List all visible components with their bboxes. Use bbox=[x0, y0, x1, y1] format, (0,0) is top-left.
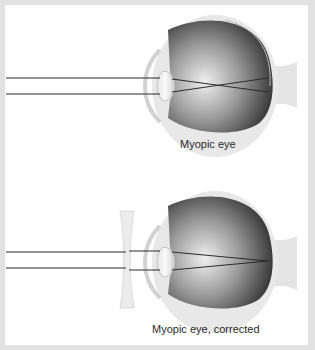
eyeball-interior bbox=[168, 197, 273, 309]
myopic-eye-illustration bbox=[6, 15, 297, 157]
crystalline-lens bbox=[157, 71, 173, 101]
caption-myopic-eye-corrected: Myopic eye, corrected bbox=[152, 323, 260, 335]
corrected-eye-illustration bbox=[6, 191, 297, 333]
myopia-diagram bbox=[0, 0, 315, 350]
caption-myopic-eye: Myopic eye bbox=[180, 138, 236, 150]
concave-corrective-lens bbox=[120, 211, 134, 308]
eyeball-interior bbox=[168, 21, 273, 133]
